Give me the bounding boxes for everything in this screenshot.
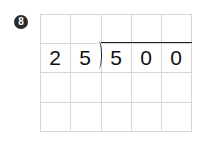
grid-line: [131, 14, 132, 132]
grid-line: [40, 131, 192, 132]
grid-line: [40, 72, 192, 73]
dividend-digit: 0: [161, 43, 191, 72]
problem-number-badge: 8: [14, 15, 28, 29]
division-grid: 2 5 5 0 0: [40, 14, 192, 132]
grid-line: [161, 14, 162, 132]
grid-line: [191, 14, 192, 132]
dividend-digit: 0: [131, 43, 161, 72]
divisor-digit: 2: [40, 43, 70, 72]
grid-line: [40, 14, 41, 132]
grid-line: [70, 14, 71, 132]
division-bracket: [95, 41, 102, 69]
grid-line: [40, 14, 192, 15]
division-bar: [101, 42, 192, 43]
grid-line: [101, 14, 102, 132]
grid-line: [40, 102, 192, 103]
dividend-digit: 5: [101, 43, 131, 72]
